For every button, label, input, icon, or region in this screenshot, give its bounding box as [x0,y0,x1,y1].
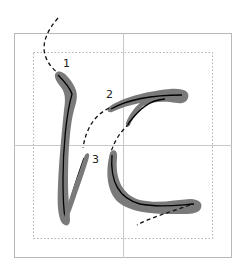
stroke-1-number: 1 [63,57,70,70]
stroke-2-number: 2 [106,88,113,101]
stroke-2: 2 [83,88,188,152]
stroke-3: 3 [92,150,202,225]
stroke-2-guide-dash [83,108,109,148]
stroke-1: 1 [44,18,89,225]
stroke-1-guide-dash [44,18,58,72]
stroke-2-guide-dash-2 [111,124,129,152]
stroke-3-number: 3 [92,153,99,166]
stroke-order-diagram: 1 2 3 [0,0,244,276]
